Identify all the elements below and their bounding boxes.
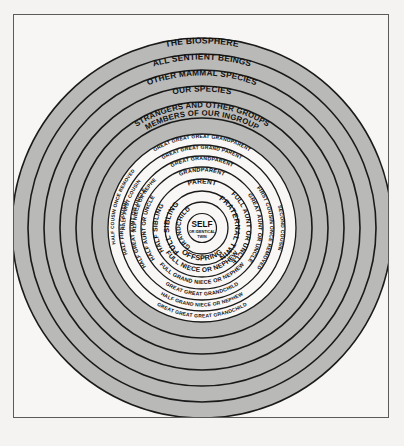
diagram-svg: THE BIOSPHEREALL SENTIENT BEINGSOTHER MA… xyxy=(0,0,404,446)
self-label-line3: TWIN xyxy=(197,235,207,239)
figure-page: THE BIOSPHEREALL SENTIENT BEINGSOTHER MA… xyxy=(0,0,404,446)
self-label-line2: OR IDENTICAL xyxy=(189,230,216,234)
self-label-line1: SELF xyxy=(192,220,213,229)
concentric-diagram: THE BIOSPHEREALL SENTIENT BEINGSOTHER MA… xyxy=(0,0,404,446)
